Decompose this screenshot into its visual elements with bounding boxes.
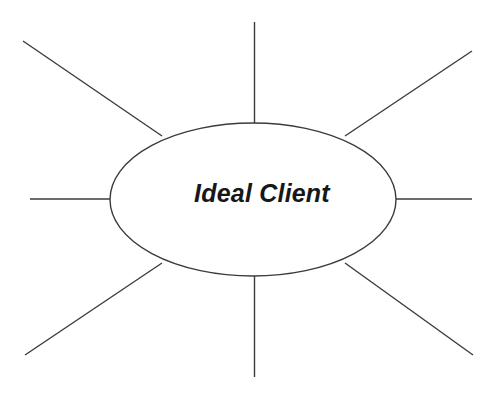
spoke-line-bottom-left[interactable] (25, 263, 162, 355)
spoke-line-top-right[interactable] (345, 51, 472, 136)
spoke-line-bottom-right[interactable] (345, 263, 473, 355)
spoke-line-top-left[interactable] (23, 41, 162, 136)
spider-diagram-svg: Ideal Client (0, 0, 500, 401)
center-label: Ideal Client (194, 179, 331, 207)
spider-diagram-canvas: Ideal Client (0, 0, 500, 401)
